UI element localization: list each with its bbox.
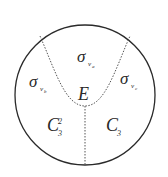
svg-text:b: b bbox=[44, 89, 47, 94]
label-C3: C 3 bbox=[106, 115, 121, 138]
label-identity-E: E bbox=[77, 84, 89, 104]
svg-text:3: 3 bbox=[116, 129, 121, 138]
svg-text:σ: σ bbox=[120, 69, 129, 88]
svg-text:σ: σ bbox=[77, 47, 86, 66]
label-sigma-vb: σ v b bbox=[29, 72, 47, 94]
svg-text:3: 3 bbox=[57, 129, 62, 138]
group-diagram: σ v a σ v b σ v c E C 2 3 C 3 bbox=[0, 0, 168, 177]
svg-text:a: a bbox=[92, 64, 95, 69]
svg-text:2: 2 bbox=[58, 117, 62, 126]
label-sigma-vc: σ v c bbox=[120, 69, 138, 91]
label-sigma-va: σ v a bbox=[77, 47, 95, 69]
label-C3-squared: C 2 3 bbox=[47, 115, 62, 138]
svg-text:σ: σ bbox=[29, 72, 38, 91]
svg-text:c: c bbox=[135, 86, 138, 91]
svg-text:E: E bbox=[77, 84, 89, 104]
